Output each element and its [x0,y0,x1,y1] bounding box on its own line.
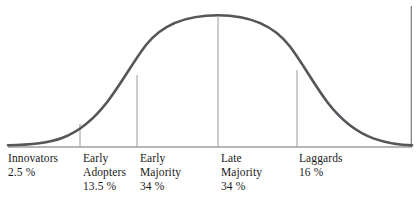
segment-label-early-majority-value: 34 % [140,179,181,193]
segment-label-late-majority-name-line2: Majority [221,165,262,179]
bell-curve-plot-area [0,0,420,209]
segment-label-early-majority-name-line1: Early [140,151,181,165]
segment-label-early-adopters-value: 13.5 % [83,179,126,193]
segment-label-late-majority-value: 34 % [221,179,262,193]
segment-label-laggards: Laggards 16 % [299,151,343,179]
segment-label-late-majority-name-line1: Late [221,151,262,165]
bell-curve-path [8,15,412,145]
segment-label-innovators-value: 2.5 % [8,165,58,179]
segment-label-late-majority: Late Majority 34 % [221,151,262,193]
segment-label-innovators-name: Innovators [8,151,58,165]
segment-label-early-adopters-name-line1: Early [83,151,126,165]
diffusion-of-innovation-chart: Innovators 2.5 % Early Adopters 13.5 % E… [0,0,420,209]
segment-label-innovators: Innovators 2.5 % [8,151,58,179]
segment-label-early-majority: Early Majority 34 % [140,151,181,193]
segment-label-early-adopters: Early Adopters 13.5 % [83,151,126,193]
segment-label-laggards-name: Laggards [299,151,343,165]
segment-label-early-majority-name-line2: Majority [140,165,181,179]
segment-label-early-adopters-name-line2: Adopters [83,165,126,179]
segment-label-laggards-value: 16 % [299,165,343,179]
